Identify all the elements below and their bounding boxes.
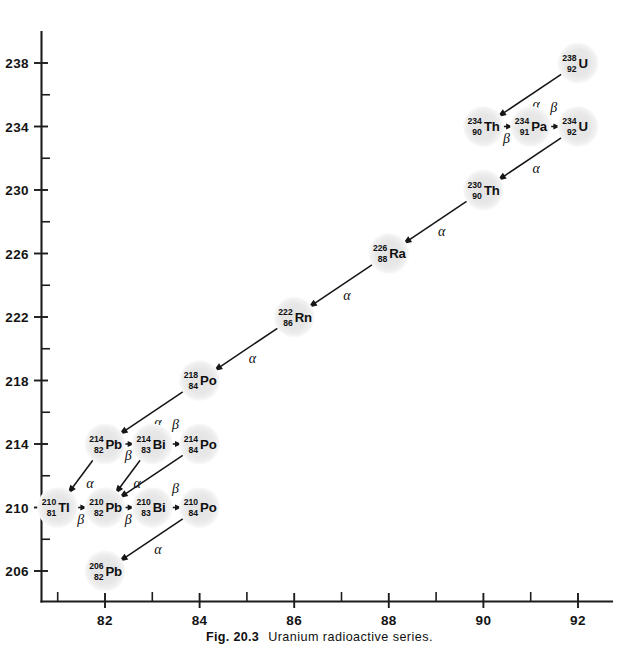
x-axis-tick-label: 92 xyxy=(570,613,586,628)
nuclide-mass-number: 218 xyxy=(184,370,199,380)
nuclide-element-symbol: Po xyxy=(200,437,217,452)
alpha-decay-label: α xyxy=(249,351,257,366)
nuclide-node: 21082Pb xyxy=(85,487,126,528)
beta-decay-label: β xyxy=(171,417,179,432)
nuclide-element-symbol: Bi xyxy=(153,437,166,452)
decay-arrow-alpha xyxy=(213,327,279,371)
nuclide-mass-number: 210 xyxy=(42,497,57,507)
x-axis-tick-label: 84 xyxy=(192,613,208,628)
nuclide-element-symbol: Bi xyxy=(153,500,166,515)
nuclide-mass-number: 214 xyxy=(136,434,151,444)
nuclide-mass-number: 206 xyxy=(89,561,104,571)
nuclide-node: 21083Bi xyxy=(132,487,173,528)
nuclide-atomic-number: 90 xyxy=(472,127,482,137)
y-axis-tick-label: 206 xyxy=(5,564,29,579)
nuclide-node: 21483Bi xyxy=(132,424,173,465)
nuclide-node: 21884Po xyxy=(179,360,220,401)
nuclide-mass-number: 214 xyxy=(184,434,199,444)
nuclide-element-symbol: Pb xyxy=(106,564,123,579)
nuclide-node: 23892U xyxy=(558,43,599,84)
y-axis-tick-label: 210 xyxy=(5,501,29,516)
nuclide-mass-number: 238 xyxy=(562,53,577,63)
nuclide-mass-number: 234 xyxy=(515,116,530,126)
y-axis-tick-label: 218 xyxy=(5,374,29,389)
nuclide-element-symbol: U xyxy=(579,56,588,71)
nuclide-mass-number: 234 xyxy=(468,116,483,126)
nuclide-node: 22286Rn xyxy=(274,297,315,338)
nuclide-mass-number: 210 xyxy=(184,497,199,507)
y-axis-tick-label: 230 xyxy=(5,183,29,198)
nuclide-element-symbol: Po xyxy=(200,500,217,515)
beta-decay-label: β xyxy=(76,512,84,527)
figure-caption: Fig. 20.3Uranium radioactive series. xyxy=(0,630,639,644)
nuclide-node: 20682Pb xyxy=(85,551,126,592)
axis-ticks xyxy=(34,63,578,608)
nuclide-atomic-number: 82 xyxy=(94,445,104,455)
nuclide-mass-number: 234 xyxy=(562,116,577,126)
alpha-decay-label: α xyxy=(86,476,94,491)
nuclide-mass-number: 226 xyxy=(373,243,388,253)
nuclide-atomic-number: 92 xyxy=(567,127,577,137)
nuclide-mass-number: 210 xyxy=(89,497,104,507)
beta-decay-label: β xyxy=(171,481,179,496)
nuclide-element-symbol: Pb xyxy=(106,437,123,452)
decay-arrow-alpha xyxy=(308,264,374,308)
nuclide-atomic-number: 83 xyxy=(141,508,151,518)
nuclide-atomic-number: 84 xyxy=(189,381,199,391)
nuclide-atomic-number: 84 xyxy=(189,445,199,455)
x-axis-tick-label: 82 xyxy=(97,613,113,628)
nuclide-node: 21484Po xyxy=(179,424,220,465)
y-axis-tick-label: 234 xyxy=(5,120,29,135)
nuclide-node: 23090Th xyxy=(463,170,504,211)
nuclide-atomic-number: 86 xyxy=(283,318,293,328)
nuclide-node: 21482Pb xyxy=(85,424,126,465)
y-axis-tick-label: 214 xyxy=(5,437,29,452)
y-axis-tick-label: 238 xyxy=(5,56,29,71)
x-axis-tick-label: 88 xyxy=(381,613,397,628)
decay-arrow-alpha xyxy=(402,200,468,244)
alpha-decay-label: α xyxy=(343,288,351,303)
nuclide-atomic-number: 83 xyxy=(141,445,151,455)
nuclide-mass-number: 214 xyxy=(89,434,104,444)
figure-root: 206210214218222226230234238828486889092 … xyxy=(0,0,639,662)
x-axis-tick-label: 86 xyxy=(286,613,302,628)
caption-figure-title: Uranium radioactive series. xyxy=(268,630,433,644)
nuclide-node: 23492U xyxy=(558,106,599,147)
uranium-decay-series-chart: 206210214218222226230234238828486889092 … xyxy=(0,0,639,662)
nuclide-atomic-number: 82 xyxy=(94,508,104,518)
nuclide-nodes: 23892U23490Th23491Pa23492U23090Th22688Ra… xyxy=(37,43,598,592)
beta-decay-label: β xyxy=(502,131,510,146)
decay-arrows xyxy=(68,73,563,561)
alpha-decay-label: α xyxy=(533,161,541,176)
caption-figure-number: Fig. 20.3 xyxy=(206,630,259,644)
alpha-decay-label: α xyxy=(134,476,142,491)
nuclide-element-symbol: Rn xyxy=(295,310,312,325)
nuclide-node: 23491Pa xyxy=(510,106,551,147)
y-axis-tick-label: 222 xyxy=(5,310,29,325)
nuclide-atomic-number: 81 xyxy=(47,508,57,518)
alpha-decay-label: α xyxy=(438,224,446,239)
nuclide-mass-number: 210 xyxy=(136,497,151,507)
nuclide-node: 21084Po xyxy=(179,487,220,528)
nuclide-atomic-number: 91 xyxy=(520,127,530,137)
alpha-decay-label: α xyxy=(154,542,162,557)
nuclide-node: 22688Ra xyxy=(368,233,409,274)
nuclide-element-symbol: Po xyxy=(200,373,217,388)
nuclide-element-symbol: Pa xyxy=(531,119,548,134)
beta-decay-label: β xyxy=(124,512,132,527)
axis-tick-labels: 206210214218222226230234238828486889092 xyxy=(5,56,586,628)
nuclide-element-symbol: U xyxy=(579,119,588,134)
x-axis-tick-label: 90 xyxy=(475,613,491,628)
nuclide-node: 21081Tl xyxy=(37,487,78,528)
nuclide-element-symbol: Th xyxy=(484,119,500,134)
nuclide-atomic-number: 88 xyxy=(378,254,388,264)
nuclide-element-symbol: Tl xyxy=(58,500,69,515)
y-axis-tick-label: 226 xyxy=(5,247,29,262)
nuclide-atomic-number: 84 xyxy=(189,508,199,518)
nuclide-atomic-number: 92 xyxy=(567,64,577,74)
nuclide-node: 23490Th xyxy=(463,106,504,147)
nuclide-element-symbol: Pb xyxy=(106,500,123,515)
nuclide-mass-number: 222 xyxy=(278,307,293,317)
nuclide-atomic-number: 82 xyxy=(94,572,104,582)
beta-decay-label: β xyxy=(549,100,557,115)
